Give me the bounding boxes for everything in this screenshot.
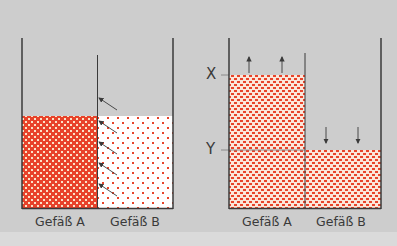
right-vessel-a-label: Gefäß A <box>242 214 292 229</box>
fluid-vessel-b-dilute <box>98 116 173 208</box>
left-vessel-system <box>22 38 173 209</box>
left-vessel-a-label: Gefäß A <box>35 214 85 229</box>
fluid-vessel-a-raised <box>229 75 305 208</box>
level-x-label: X <box>206 65 216 83</box>
fall-arrows <box>326 127 358 143</box>
rise-arrows <box>249 57 282 73</box>
right-vessel-system <box>221 38 381 209</box>
osmosis-diagram <box>0 0 397 246</box>
left-vessel-b-label: Gefäß B <box>110 214 160 229</box>
fluid-vessel-a-concentrated <box>22 116 98 208</box>
fluid-vessel-b-lowered <box>305 150 381 208</box>
level-y-label: Y <box>206 140 215 158</box>
right-vessel-b-label: Gefäß B <box>316 214 366 229</box>
